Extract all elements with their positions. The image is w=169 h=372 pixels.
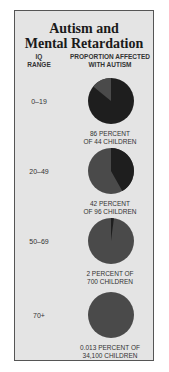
column-header-proportion: PROPORTION AFFECTED WITH AUTISM <box>67 53 153 68</box>
pie-caption: 42 PERCENT OF 96 CHILDREN <box>67 200 153 215</box>
chart-title: Autism and Mental Retardation <box>15 21 153 51</box>
column-header-proportion-line1: PROPORTION AFFECTED <box>67 53 153 61</box>
caption-line1: 42 PERCENT <box>67 200 153 208</box>
pie-chart <box>87 217 135 265</box>
pie-chart <box>87 291 135 339</box>
pie-chart <box>87 147 135 195</box>
iq-range-label: 0–19 <box>21 98 57 105</box>
caption-line2: OF 96 CHILDREN <box>67 208 153 216</box>
caption-line2: OF 44 CHILDREN <box>67 138 153 146</box>
iq-range-label: 50–69 <box>21 238 57 245</box>
pie-caption: 0.013 PERCENT OF 34,100 CHILDREN <box>67 344 153 359</box>
column-header-proportion-line2: WITH AUTISM <box>67 61 153 69</box>
chart-frame: Autism and Mental Retardation IQ RANGE P… <box>14 10 154 361</box>
iq-range-label: 20–49 <box>21 168 57 175</box>
caption-line2: 34,100 CHILDREN <box>67 352 153 360</box>
caption-line1: 2 PERCENT OF <box>67 270 153 278</box>
pie-caption: 2 PERCENT OF 700 CHILDREN <box>67 270 153 285</box>
column-header-iq: IQ RANGE <box>21 53 57 68</box>
iq-range-label: 70+ <box>21 312 57 319</box>
column-header-iq-line1: IQ <box>21 53 57 61</box>
column-header-iq-line2: RANGE <box>21 61 57 69</box>
title-line-1: Autism and <box>15 21 153 36</box>
pie-caption: 86 PERCENT OF 44 CHILDREN <box>67 130 153 145</box>
caption-line1: 0.013 PERCENT OF <box>67 344 153 352</box>
title-line-2: Mental Retardation <box>15 36 153 51</box>
caption-line1: 86 PERCENT <box>67 130 153 138</box>
pie-chart <box>87 77 135 125</box>
caption-line2: 700 CHILDREN <box>67 278 153 286</box>
